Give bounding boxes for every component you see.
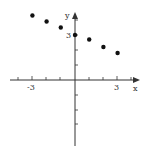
data-point (30, 13, 34, 17)
x-axis-arrow-icon (133, 77, 140, 83)
data-point (73, 33, 77, 37)
y-tick-label-3: 3 (66, 31, 71, 40)
data-point (59, 25, 63, 29)
coordinate-plane: -3 3 x y 3 (0, 0, 148, 153)
y-axis-label: y (64, 11, 70, 20)
x-axis-label: x (133, 84, 138, 93)
x-tick-label-neg3: -3 (27, 83, 35, 92)
data-point (87, 37, 91, 41)
data-point (115, 51, 119, 55)
data-point (101, 45, 105, 49)
y-axis-arrow-icon (72, 12, 78, 19)
x-tick-label-3: 3 (114, 83, 119, 92)
data-point (44, 19, 48, 23)
